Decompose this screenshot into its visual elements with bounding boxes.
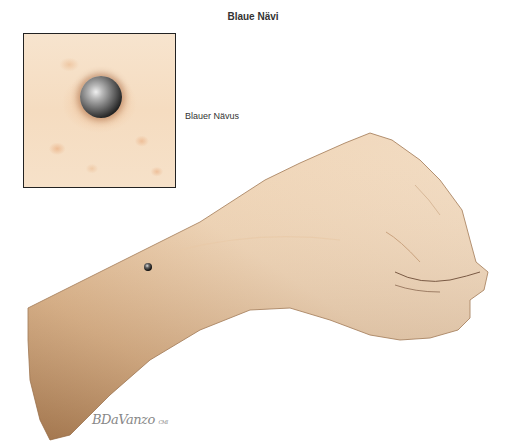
illustration-canvas: Blaue Nävi Blauer Nävus (0, 0, 506, 448)
signature-suffix: CMI (158, 419, 167, 425)
signature-name: BDaVanzo (92, 412, 155, 427)
forearm-fist-illustration (0, 0, 506, 448)
artist-signature: BDaVanzo CMI (92, 412, 168, 427)
blue-nevus-wrist (144, 263, 152, 271)
